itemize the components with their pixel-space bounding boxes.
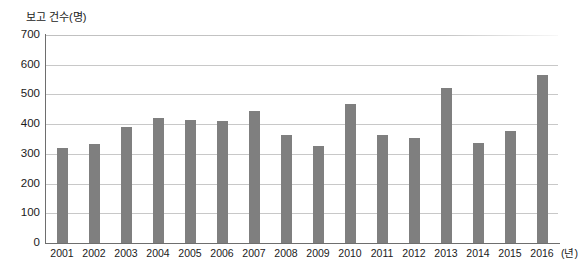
- y-axis-tick-label: 0: [6, 237, 40, 249]
- x-axis-tick-label: 2008: [269, 247, 303, 259]
- y-axis-tick-label: 600: [6, 59, 40, 71]
- x-axis-tick-label: 2009: [301, 247, 335, 259]
- x-axis-tick-label: 2003: [109, 247, 143, 259]
- x-axis-tick-label: 2007: [237, 247, 271, 259]
- bar: [345, 104, 356, 243]
- gridline: [46, 35, 558, 36]
- x-axis-tick-label: 2015: [493, 247, 527, 259]
- bar: [377, 135, 388, 243]
- bar: [281, 135, 292, 243]
- bar: [249, 111, 260, 243]
- bar-chart: 보고 건수(명) 0100200300400500600700 20012002…: [0, 0, 583, 277]
- x-axis-tick-label: 2006: [205, 247, 239, 259]
- x-axis-tick-labels: 2001200220032004200520062007200820092010…: [46, 247, 558, 263]
- x-axis-tick-label: 2016: [525, 247, 559, 259]
- x-axis-tick-label: 2005: [173, 247, 207, 259]
- x-axis-unit-label: (년): [561, 247, 578, 259]
- y-axis-tick-label: 400: [6, 118, 40, 130]
- bar: [441, 88, 452, 243]
- y-axis-tick-label: 300: [6, 148, 40, 160]
- bar: [89, 144, 100, 243]
- y-axis-tick-label: 700: [6, 29, 40, 41]
- x-axis-tick-label: 2004: [141, 247, 175, 259]
- x-axis-tick-label: 2014: [461, 247, 495, 259]
- bar: [537, 75, 548, 243]
- y-axis-tick-label: 200: [6, 178, 40, 190]
- x-axis-tick-label: 2002: [77, 247, 111, 259]
- bar: [217, 121, 228, 243]
- bar: [185, 120, 196, 243]
- bar: [505, 131, 516, 243]
- bar: [473, 143, 484, 243]
- x-axis-line: [45, 243, 560, 244]
- bar: [153, 118, 164, 243]
- x-axis-tick-label: 2013: [429, 247, 463, 259]
- y-axis-line: [45, 34, 46, 244]
- bar: [409, 138, 420, 243]
- bar: [313, 146, 324, 243]
- x-axis-tick-label: 2011: [365, 247, 399, 259]
- y-axis-tick-labels: 0100200300400500600700: [0, 0, 40, 277]
- bar: [57, 148, 68, 243]
- gridline: [46, 124, 558, 125]
- x-axis-tick-label: 2001: [45, 247, 79, 259]
- x-axis-tick-label: 2012: [397, 247, 431, 259]
- bar: [121, 127, 132, 243]
- gridline: [46, 94, 558, 95]
- gridline: [46, 65, 558, 66]
- plot-area: [46, 35, 558, 243]
- y-axis-tick-label: 100: [6, 207, 40, 219]
- y-axis-tick-label: 500: [6, 88, 40, 100]
- x-axis-tick-label: 2010: [333, 247, 367, 259]
